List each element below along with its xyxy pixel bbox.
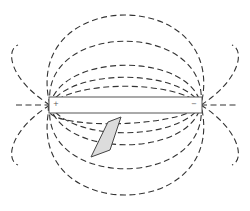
field-line [47, 105, 204, 195]
field-lines-diagram [0, 0, 250, 211]
positive-charge-label: + [53, 101, 59, 108]
field-line [47, 15, 204, 105]
charged-rod [49, 97, 202, 113]
field-line [201, 105, 238, 165]
diagram-canvas: + − [0, 0, 250, 211]
surface-patch [91, 117, 121, 157]
field-line [12, 45, 50, 105]
field-line [201, 45, 238, 105]
field-line [12, 105, 50, 165]
negative-charge-label: − [191, 101, 197, 108]
field-line [50, 105, 202, 169]
field-line [50, 41, 202, 105]
